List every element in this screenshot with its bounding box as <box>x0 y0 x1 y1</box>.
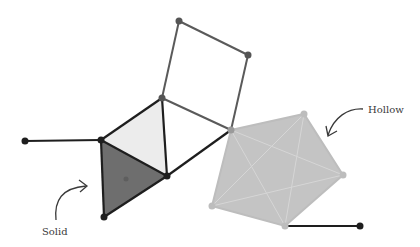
vertex-tri-right <box>164 173 171 180</box>
vertex-pent-d <box>282 223 289 230</box>
vertex-pent-b <box>301 111 308 118</box>
vertex-pent-e <box>209 203 216 210</box>
vertex-tri-left <box>98 137 105 144</box>
vertex-tri-bottom <box>101 214 108 221</box>
vertex-square-top <box>176 18 183 25</box>
label-hollow: Hollow <box>368 104 404 115</box>
label-solid: Solid <box>42 226 68 237</box>
vertex-left-end <box>22 138 29 145</box>
square-edges <box>162 21 248 130</box>
vertex-pent-c <box>340 172 347 179</box>
polyhedral-complex-diagram: Solid Hollow <box>0 0 420 247</box>
vertex-right-end <box>357 223 364 230</box>
vertex-tri-center <box>124 177 129 182</box>
vertex-junction <box>228 127 235 134</box>
vertex-mid-top <box>159 95 166 102</box>
vertex-square-right <box>245 52 252 59</box>
hollow-arrow-icon <box>328 109 363 135</box>
